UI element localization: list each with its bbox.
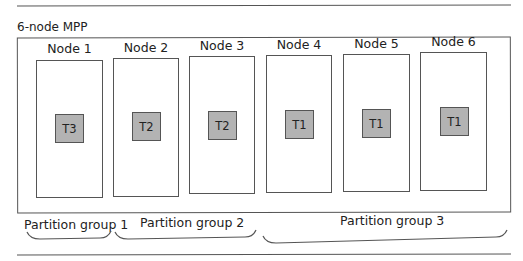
brace-group-1 <box>27 231 111 239</box>
brace-group-3 <box>263 230 507 243</box>
partition-braces <box>0 0 523 261</box>
brace-group-2 <box>115 230 256 239</box>
